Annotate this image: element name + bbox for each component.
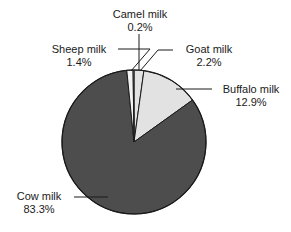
- pie-label-goat-milk: Goat milk 2.2%: [175, 43, 243, 68]
- pie-label-camel-milk-name: Camel milk: [104, 8, 176, 21]
- pie-label-sheep-milk-name: Sheep milk: [42, 43, 116, 56]
- pie-label-goat-milk-name: Goat milk: [175, 43, 243, 56]
- pie-label-buffalo-milk: Buffalo milk 12.9%: [214, 83, 288, 108]
- pie-label-camel-milk: Camel milk 0.2%: [104, 8, 176, 33]
- pie-label-sheep-milk-value: 1.4%: [42, 56, 116, 69]
- pie-label-buffalo-milk-name: Buffalo milk: [214, 83, 288, 96]
- pie-label-buffalo-milk-value: 12.9%: [214, 96, 288, 109]
- pie-label-sheep-milk: Sheep milk 1.4%: [42, 43, 116, 68]
- pie-chart-figure: Camel milk 0.2% Sheep milk 1.4% Goat mil…: [0, 0, 291, 232]
- leader-line-goat: [140, 50, 173, 71]
- pie-label-cow-milk-value: 83.3%: [6, 203, 72, 216]
- pie-label-cow-milk-name: Cow milk: [6, 190, 72, 203]
- pie-label-cow-milk: Cow milk 83.3%: [6, 190, 72, 215]
- pie-label-goat-milk-value: 2.2%: [175, 56, 243, 69]
- pie-label-camel-milk-value: 0.2%: [104, 21, 176, 34]
- leader-line-sheep: [118, 49, 150, 71]
